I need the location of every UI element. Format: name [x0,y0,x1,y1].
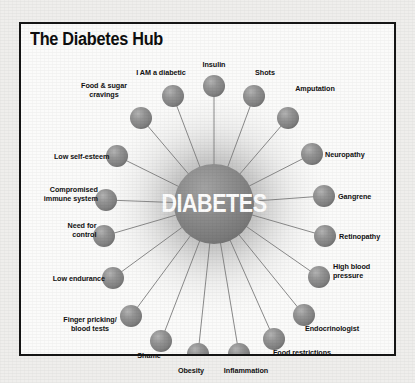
node-label-neuropathy: Neuropathy [325,150,365,159]
node-sphere-neuropathy[interactable] [301,143,323,165]
node-sphere-compromised-immune-system[interactable] [95,189,117,211]
node-label-gangrene: Gangrene [338,192,371,201]
node-label-endocrinologist: Endocrinologist [289,324,375,333]
node-sphere-low-endurance[interactable] [102,267,124,289]
node-label-shots: Shots [222,68,308,77]
node-sphere-shame[interactable] [150,330,172,352]
node-label-i-am-a-diabetic: I AM a diabetic [118,68,204,77]
hub-label: DIABETES [161,190,266,218]
node-label-food-restrictions: Food restrictions [259,348,345,357]
node-sphere-insulin[interactable] [203,75,225,97]
node-sphere-endocrinologist[interactable] [293,304,315,326]
node-label-low-endurance: Low endurance [53,274,105,283]
node-sphere-gangrene[interactable] [313,185,335,207]
node-label-low-self-esteem: Low self-esteem [54,152,109,161]
node-label-finger-pricking-blood-tests: Finger pricking/ blood tests [47,315,133,334]
node-sphere-amputation[interactable] [277,107,299,129]
node-label-shame: Shame [106,351,192,360]
hub-and-spoke-diagram: DIABETES InsulinI AM a diabeticShotsFood… [21,24,394,354]
node-sphere-food-and-sugar-cravings[interactable] [130,107,152,129]
node-label-inflammation: Inflammation [203,366,289,375]
node-label-high-blood-pressure: High blood pressure [333,262,370,281]
diagram-frame: The Diabetes Hub [19,22,396,356]
node-sphere-food-restrictions[interactable] [263,328,285,350]
node-sphere-shots[interactable] [243,85,265,107]
node-sphere-i-am-a-diabetic[interactable] [162,85,184,107]
node-sphere-high-blood-pressure[interactable] [308,266,330,288]
node-label-need-for-control: Need for control [67,221,96,240]
node-label-amputation: Amputation [272,84,358,93]
node-label-food-and-sugar-cravings: Food & sugar cravings [61,81,147,100]
node-sphere-retinopathy[interactable] [314,225,336,247]
node-label-retinopathy: Retinopathy [339,232,380,241]
node-sphere-inflammation[interactable] [228,343,250,354]
node-label-compromised-immune-system: Compromised immune system [44,185,98,204]
